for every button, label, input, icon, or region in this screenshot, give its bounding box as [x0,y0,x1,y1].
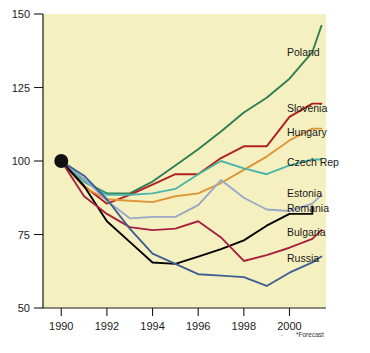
series-label-slovenia: Slovenia [287,102,327,114]
y-tick-label: 150 [12,8,30,20]
x-tick-label: 1996 [186,320,210,332]
line-chart: 1501251007550199019921994199619982000 Po… [0,0,370,353]
series-label-bulgaria: Bulgaria [287,226,326,238]
y-tick-label: 50 [18,302,30,314]
series-label-poland: Poland [287,46,320,58]
plot-background [43,14,326,308]
chart-container: 1501251007550199019921994199619982000 Po… [0,0,370,353]
series-label-hungary: Hungary [287,126,327,138]
x-tick-label: 1992 [95,320,119,332]
origin-dot-icon [54,154,68,168]
y-tick-label: 75 [18,229,30,241]
series-label-czech-rep: Czech Rep [287,156,339,168]
x-tick-label: 1998 [232,320,256,332]
x-tick-label: 1990 [49,320,73,332]
forecast-footnote: *Forecast [296,331,324,338]
series-label-romania: Romania [287,202,329,214]
y-tick-label: 125 [12,82,30,94]
series-label-estonia: Estonia [287,187,322,199]
y-tick-label: 100 [12,155,30,167]
x-tick-label: 1994 [140,320,164,332]
series-label-russia: Russia [287,252,319,264]
stray-mark: . [281,330,283,337]
